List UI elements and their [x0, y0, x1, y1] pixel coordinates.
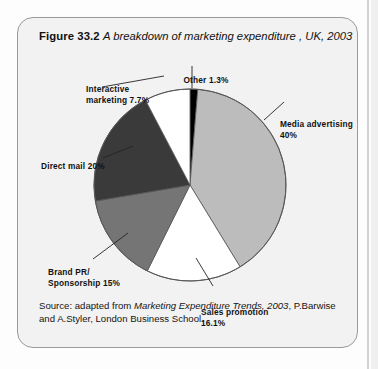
source-prefix: Source: adapted from [39, 300, 134, 311]
source-title: Marketing Expenditure Trends, 2003 [134, 300, 288, 311]
page-edge-line [367, 0, 369, 369]
leader-media [264, 102, 284, 120]
figure-card: Figure 33.2 A breakdown of marketing exp… [17, 17, 358, 348]
pie-label-interactive-marketing: Interactive marketing 7.7% [86, 84, 182, 105]
pie-label-media-advertising: Media advertising 40% [280, 119, 378, 140]
figure-source: Source: adapted from Marketing Expenditu… [39, 299, 344, 325]
pie-slices [94, 89, 286, 281]
page-margin-strip [371, 0, 378, 369]
pie-label-direct-mail: Direct mail 20% [41, 161, 141, 172]
pie-label-brand-pr-sponsorship: Brand PR/ Sponsorship 15% [48, 267, 148, 288]
